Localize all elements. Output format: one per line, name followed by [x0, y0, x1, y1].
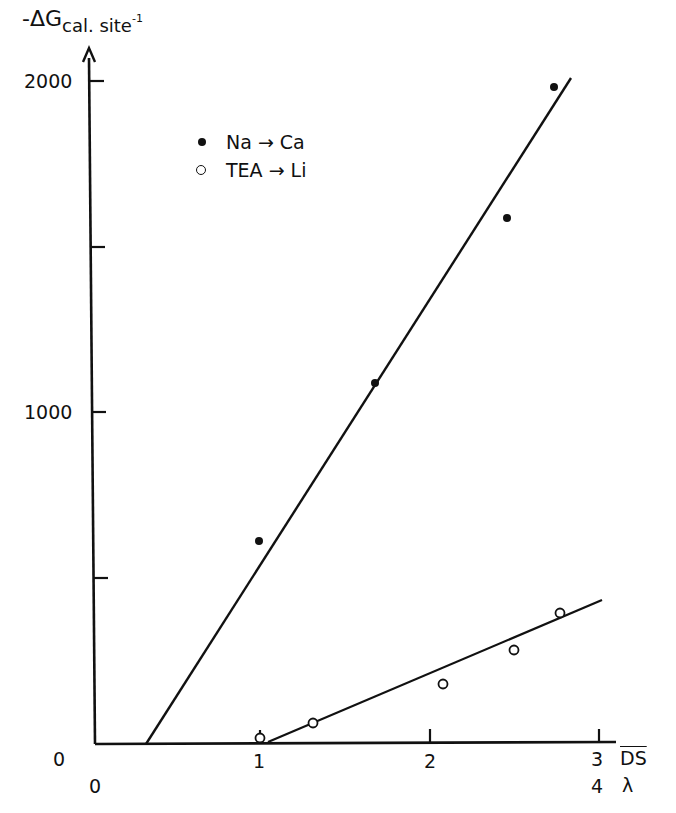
plot-area: [0, 0, 676, 813]
x-tick-label-1: 1: [253, 750, 265, 772]
x2-axis-title-lambda: λ: [622, 774, 633, 796]
y-tick-label-2000: 2000: [24, 70, 72, 92]
y-axis-title: -ΔGcal. site-1: [22, 6, 143, 31]
x-axis: [95, 742, 616, 744]
x-axis-title-ds: DS: [620, 747, 647, 769]
x2-tick-label-4: 4: [591, 775, 603, 797]
legend-label-na-ca: Na → Ca: [226, 131, 305, 153]
y-tick-label-1000: 1000: [24, 401, 72, 423]
series-tea-li-points: [256, 609, 565, 743]
y-axis: [89, 58, 95, 744]
open-circle-icon: [196, 165, 206, 175]
y-title-exponent: -1: [132, 12, 143, 25]
legend: Na → Ca TEA → Li: [198, 128, 306, 184]
x-tick-label-3: 3: [591, 748, 603, 770]
legend-item-na-ca: Na → Ca: [198, 128, 306, 156]
x2-tick-label-0: 0: [89, 775, 101, 797]
x-tick-label-2: 2: [424, 750, 436, 772]
x-tick-label-0: 0: [53, 748, 65, 770]
y-title-main: -ΔG: [22, 6, 62, 31]
filled-circle-icon: [198, 138, 206, 146]
fit-line-tea-li: [268, 600, 602, 742]
chart: -ΔGcal. site-1 2000 1000 0 1 2 3 DS 0 4 …: [0, 0, 676, 813]
legend-item-tea-li: TEA → Li: [198, 156, 306, 184]
y-title-unit: cal. site: [62, 15, 132, 36]
legend-label-tea-li: TEA → Li: [226, 159, 306, 181]
